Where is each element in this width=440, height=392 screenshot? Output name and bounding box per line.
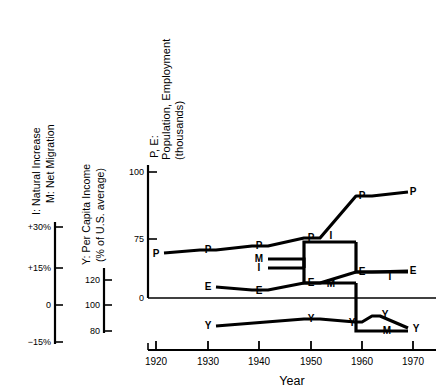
point-label-P-1970: P <box>410 186 417 197</box>
x-axis-title: Year <box>279 374 304 388</box>
im-tick-label-1: +15% <box>28 263 51 273</box>
x-tick-label-0: 1920 <box>145 356 168 367</box>
point-label-E-1930: E <box>205 281 212 292</box>
pe-tick-label-2: 0 <box>139 293 144 303</box>
point-label-P-1940: P <box>256 240 263 251</box>
point-label-M-1950: M <box>327 278 335 289</box>
chart-canvas: +30% +15% 0 −15% 120 100 80 100 75 0 <box>0 0 440 392</box>
x-tick-label-1: 1930 <box>197 356 220 367</box>
series-P: P P P P P P <box>153 186 417 259</box>
pe-axis: 100 75 0 <box>129 165 436 303</box>
chart-figure: I: Natural Increase M: Net Migration Y: … <box>0 0 440 392</box>
point-label-I-1965: I <box>389 271 392 282</box>
point-label-Y-1965: Y <box>382 309 389 320</box>
pe-tick-label-1: 75 <box>134 234 144 244</box>
point-label-P-1920: P <box>153 248 160 259</box>
point-label-Y-1950: Y <box>308 313 315 324</box>
series-M: M M M <box>255 253 408 336</box>
point-label-I-1955: I <box>330 230 333 241</box>
x-tick-label-3: 1950 <box>300 356 323 367</box>
x-tick-label-2: 1940 <box>248 356 271 367</box>
point-label-E-1940: E <box>256 285 263 296</box>
point-label-Y-1970: Y <box>413 323 420 334</box>
point-label-P-1930: P <box>205 244 212 255</box>
y-axis: 120 100 80 <box>85 268 112 336</box>
im-tick-label-3: −15% <box>28 337 51 347</box>
y-tick-label-1: 100 <box>85 300 100 310</box>
x-tick-label-4: 1960 <box>351 356 374 367</box>
im-axis: +30% +15% 0 −15% <box>28 222 63 347</box>
series-I-seg-1950-1960 <box>304 242 356 268</box>
pe-tick-label-0: 100 <box>129 167 144 177</box>
point-label-E-1970: E <box>410 265 417 276</box>
series-E: E E E E E <box>205 265 417 296</box>
y-tick-label-2: 80 <box>90 326 100 336</box>
series-I: I I I <box>258 230 408 282</box>
im-tick-label-2: 0 <box>46 300 51 310</box>
point-label-Y-1960: Y <box>349 317 356 328</box>
y-tick-label-0: 120 <box>85 275 100 285</box>
series-P-line <box>164 192 408 253</box>
im-tick-label-0: +30% <box>28 222 51 232</box>
point-label-M-1940: M <box>255 253 263 264</box>
x-tick-label-5: 1970 <box>402 356 425 367</box>
point-label-M-1965: M <box>383 325 391 336</box>
point-label-P-1960: P <box>359 190 366 201</box>
x-axis: 1920 1930 1940 1950 1960 1970 Year <box>145 341 436 388</box>
point-label-Y-1930: Y <box>205 320 212 331</box>
